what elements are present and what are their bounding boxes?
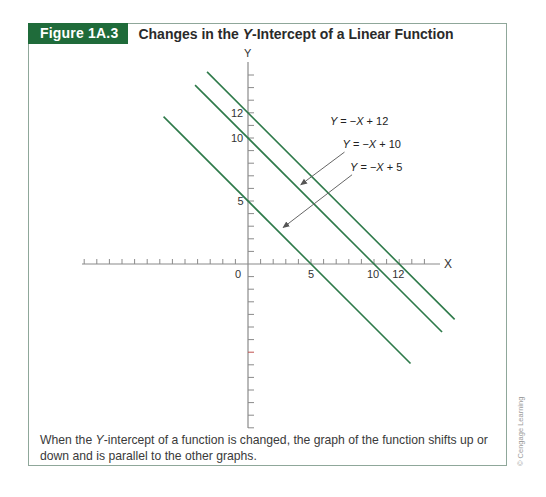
series-annotation: Y = −X + 5: [350, 161, 402, 173]
figure-caption: When the Y-intercept of a function is ch…: [40, 432, 500, 464]
annotation-arrow: [301, 152, 345, 185]
x-tick-label: 12: [392, 268, 404, 280]
y-axis-label: Y: [244, 47, 252, 59]
caption-text: When the: [40, 433, 96, 447]
line-series: [195, 85, 442, 332]
y-tick-label: 12: [231, 107, 243, 119]
x-tick-label: 10: [367, 268, 379, 280]
x-tick-label-0: 0: [235, 268, 241, 280]
caption-text-suffix: -intercept of a function is changed, the…: [40, 433, 488, 463]
line-chart: XY05101251012Y = −X + 12Y = −X + 10Y = −…: [0, 0, 546, 497]
line-series: [164, 117, 411, 364]
y-tick-label: 10: [231, 132, 243, 144]
copyright-credit: © Cengage Learning: [516, 397, 525, 466]
x-tick-label: 5: [308, 268, 314, 280]
series-annotation: Y = −X + 10: [343, 138, 401, 150]
line-series: [207, 72, 455, 320]
caption-italic: Y: [96, 433, 104, 447]
x-axis-label: X: [444, 257, 452, 271]
series-annotation: Y = −X + 12: [330, 115, 388, 127]
